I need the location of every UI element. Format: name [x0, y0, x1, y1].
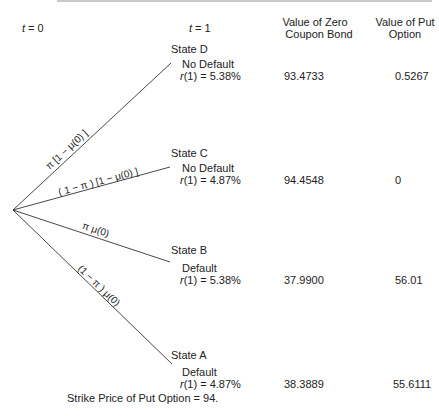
state-a-bond-value: 38.3889	[284, 378, 324, 390]
state-b-status: Default	[182, 262, 217, 274]
rate-value: (1) = 4.87%	[184, 174, 241, 186]
strike-price-note: Strike Price of Put Option = 94.	[67, 392, 218, 404]
state-c-rate: r(1) = 4.87%	[180, 174, 241, 186]
state-c-put-value: 0	[395, 174, 401, 186]
state-a-rate: r(1) = 4.87%	[180, 378, 241, 390]
state-c-status: No Default	[182, 162, 234, 174]
state-b-name: State B	[171, 244, 207, 256]
state-a-name: State A	[171, 349, 206, 361]
state-d-put-value: 0.5267	[395, 70, 429, 82]
state-b-put-value: 56.01	[395, 274, 423, 286]
state-b-rate: r(1) = 5.38%	[180, 274, 241, 286]
state-a-put-value: 55.6111	[393, 378, 431, 390]
state-d-name: State D	[171, 43, 208, 55]
state-c-name: State C	[171, 147, 208, 159]
state-c-bond-value: 94.4548	[284, 174, 324, 186]
branch-line-b	[13, 210, 170, 262]
state-b-bond-value: 37.9900	[284, 274, 324, 286]
state-d-rate: r(1) = 5.38%	[180, 70, 241, 82]
rate-value: (1) = 4.87%	[184, 378, 241, 390]
state-a-status: Default	[182, 366, 217, 378]
state-d-status: No Default	[182, 58, 234, 70]
rate-value: (1) = 5.38%	[184, 70, 241, 82]
state-d-bond-value: 93.4733	[284, 70, 324, 82]
rate-value: (1) = 5.38%	[184, 274, 241, 286]
